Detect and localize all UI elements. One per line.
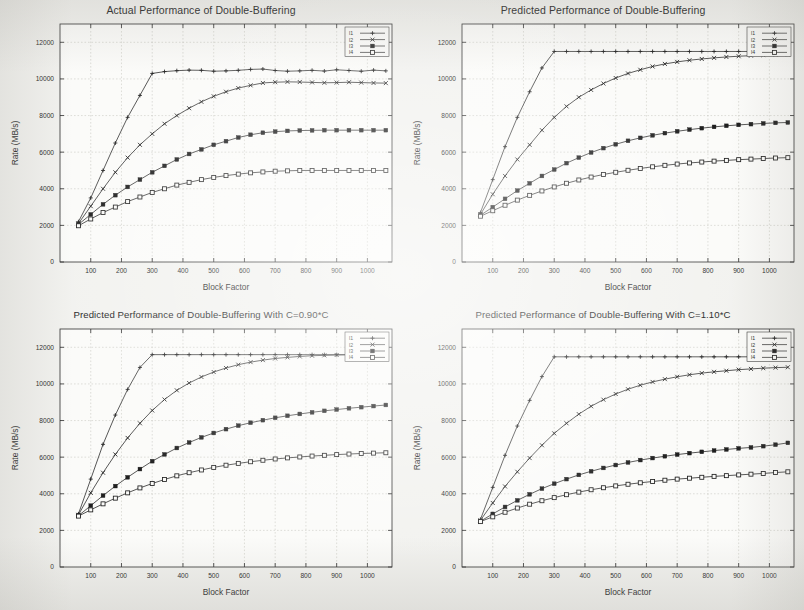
marker-open-square — [749, 157, 753, 161]
marker-filled-square — [663, 131, 667, 135]
x-tick-label: 900 — [733, 267, 744, 274]
marker-open-square — [478, 214, 482, 218]
marker-open-square — [126, 200, 130, 204]
marker-open-square — [552, 496, 556, 500]
marker-filled-square — [552, 482, 556, 486]
marker-filled-square — [712, 125, 716, 129]
marker-filled-square — [273, 416, 277, 420]
marker-filled-square — [651, 133, 655, 137]
marker-open-square — [675, 162, 679, 166]
marker-filled-square — [298, 412, 302, 416]
y-tick-label: 4000 — [441, 185, 456, 192]
legend-label-l2: l2 — [751, 37, 755, 43]
y-tick-label: 4000 — [441, 490, 456, 497]
marker-open-square — [478, 520, 482, 524]
marker-filled-square — [113, 193, 117, 197]
marker-filled-square — [688, 128, 692, 132]
marker-filled-square — [236, 424, 240, 428]
marker-filled-square — [101, 494, 105, 498]
x-tick-label: 1000 — [762, 267, 777, 274]
marker-filled-square — [724, 124, 728, 128]
marker-open-square — [601, 172, 605, 176]
marker-open-square — [675, 477, 679, 481]
marker-open-square — [638, 481, 642, 485]
x-tick-label: 700 — [672, 267, 683, 274]
marker-open-square — [552, 185, 556, 189]
x-axis-label: Block Factor — [203, 282, 250, 292]
marker-filled-square — [786, 121, 790, 125]
marker-open-square — [737, 473, 741, 477]
chart-panel-3: Predicted Performance of Double-Bufferin… — [402, 305, 804, 610]
marker-open-square — [236, 172, 240, 176]
x-tick-label: 800 — [300, 572, 311, 579]
marker-filled-square — [638, 136, 642, 140]
marker-filled-square — [737, 446, 741, 450]
y-tick-label: 0 — [452, 258, 456, 265]
legend-label-l3: l3 — [349, 348, 353, 354]
x-tick-label: 500 — [610, 267, 621, 274]
legend-label-l1: l1 — [751, 30, 755, 36]
marker-filled-square — [626, 139, 630, 143]
marker-filled-square — [89, 213, 93, 217]
marker-filled-square — [335, 408, 339, 412]
x-tick-label: 900 — [331, 267, 342, 274]
chart-svg-1: 1002003004005006007008009001000020004000… — [402, 0, 804, 305]
chart-svg-3: 1002003004005006007008009001000020004000… — [402, 305, 804, 610]
marker-open-square — [372, 451, 376, 455]
marker-filled-square — [552, 168, 556, 172]
marker-filled-square — [113, 484, 117, 488]
figure-grid: Actual Performance of Double-Buffering 1… — [0, 0, 804, 610]
y-tick-label: 6000 — [441, 454, 456, 461]
marker-filled-square — [503, 197, 507, 201]
marker-open-square — [285, 169, 289, 173]
marker-filled-square — [749, 122, 753, 126]
chart-legend: l1l2l3l4 — [345, 332, 389, 362]
marker-open-square — [503, 510, 507, 514]
marker-open-square — [359, 168, 363, 172]
marker-filled-square — [761, 444, 765, 448]
x-tick-label: 400 — [579, 572, 590, 579]
y-tick-label: 4000 — [39, 185, 54, 192]
x-tick-label: 900 — [331, 572, 342, 579]
marker-open-square — [89, 508, 93, 512]
marker-open-square — [76, 514, 80, 518]
marker-filled-square — [749, 446, 753, 450]
legend-label-l4: l4 — [349, 49, 353, 55]
x-tick-label: 600 — [641, 572, 652, 579]
marker-open-square — [515, 198, 519, 202]
marker-open-square — [774, 156, 778, 160]
marker-filled-square — [224, 427, 228, 431]
marker-filled-square — [540, 174, 544, 178]
legend-label-l1: l1 — [349, 30, 353, 36]
marker-open-square — [150, 482, 154, 486]
x-tick-label: 100 — [85, 572, 96, 579]
marker-open-square — [298, 168, 302, 172]
marker-filled-square — [249, 133, 253, 137]
marker-open-square — [113, 205, 117, 209]
marker-open-square — [565, 181, 569, 185]
chart-title-2: Predicted Performance of Double-Bufferin… — [0, 309, 402, 320]
marker-filled-square — [384, 403, 388, 407]
marker-open-square — [175, 183, 179, 187]
marker-filled-square — [298, 129, 302, 133]
marker-filled-square — [261, 418, 265, 422]
marker-open-square — [773, 50, 777, 54]
chart-panel-0: Actual Performance of Double-Buffering 1… — [0, 0, 402, 305]
legend-label-l1: l1 — [349, 335, 353, 341]
chart-legend: l1l2l3l4 — [345, 27, 389, 57]
marker-open-square — [322, 453, 326, 457]
y-tick-label: 10000 — [36, 380, 55, 387]
marker-open-square — [310, 168, 314, 172]
marker-filled-square — [101, 202, 105, 206]
marker-filled-square — [774, 121, 778, 125]
marker-filled-square — [286, 129, 290, 133]
marker-open-square — [528, 193, 532, 197]
marker-filled-square — [261, 131, 265, 135]
x-tick-label: 400 — [579, 267, 590, 274]
marker-open-square — [774, 471, 778, 475]
marker-open-square — [651, 165, 655, 169]
marker-filled-square — [322, 409, 326, 413]
x-tick-label: 100 — [487, 267, 498, 274]
marker-open-square — [163, 187, 167, 191]
marker-open-square — [273, 169, 277, 173]
